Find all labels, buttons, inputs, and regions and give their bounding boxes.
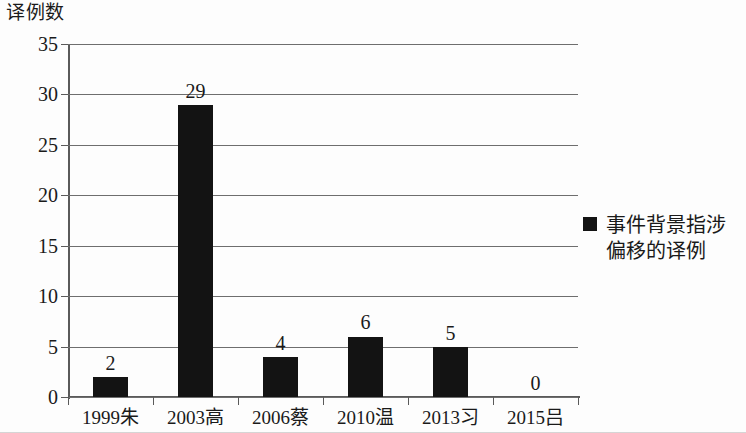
- bar-value-label: 0: [506, 372, 566, 394]
- y-tick-mark: [61, 145, 68, 146]
- bar-value-label: 29: [166, 80, 226, 102]
- bar-value-label: 5: [421, 322, 481, 344]
- x-tick-label: 2006蔡: [238, 406, 323, 430]
- y-tick-label: 10: [38, 284, 58, 308]
- legend-label-line1: 事件背景指涉: [606, 214, 726, 236]
- bar[interactable]: [93, 377, 128, 397]
- bar[interactable]: [178, 105, 213, 397]
- x-tick-label: 2010温: [323, 406, 408, 430]
- y-tick-label: 20: [38, 183, 58, 207]
- y-tick-mark: [61, 195, 68, 196]
- x-tick-mark: [153, 396, 154, 405]
- x-tick-label: 2013习: [408, 406, 493, 430]
- bar[interactable]: [263, 357, 298, 397]
- gridline: 35: [68, 44, 578, 45]
- y-tick-label: 5: [48, 335, 58, 359]
- y-tick-mark: [61, 94, 68, 95]
- x-tick-mark: [493, 396, 494, 405]
- y-tick-label: 30: [38, 82, 58, 106]
- y-axis-title: 译例数: [6, 2, 65, 24]
- y-tick-mark: [61, 296, 68, 297]
- x-tick-mark: [408, 396, 409, 405]
- y-tick-label: 25: [38, 133, 58, 157]
- legend-label-line2: 偏移的译例: [606, 240, 706, 262]
- x-tick-mark: [323, 396, 324, 405]
- legend: 事件背景指涉偏移的译例: [583, 212, 741, 264]
- x-tick-mark: [578, 396, 579, 405]
- bar-value-label: 6: [336, 311, 396, 333]
- gridline: 20: [68, 195, 578, 196]
- gridline: 5: [68, 347, 578, 348]
- x-tick-label: 2015吕: [493, 406, 578, 430]
- y-tick-label: 15: [38, 234, 58, 258]
- bar[interactable]: [348, 337, 383, 398]
- plot-area: 05101520253035 2294650: [68, 44, 578, 397]
- legend-swatch-icon: [583, 217, 597, 231]
- y-tick-mark: [61, 397, 68, 398]
- gridline: 15: [68, 246, 578, 247]
- y-tick-label: 35: [38, 32, 58, 56]
- y-tick-mark: [61, 246, 68, 247]
- x-tick-label: 2003高: [153, 406, 238, 430]
- x-tick-label: 1999朱: [68, 406, 153, 430]
- x-tick-mark: [68, 396, 69, 405]
- gridline: 30: [68, 94, 578, 95]
- y-tick-mark: [61, 347, 68, 348]
- bar-value-label: 4: [251, 332, 311, 354]
- y-tick-mark: [61, 44, 68, 45]
- legend-label: 事件背景指涉偏移的译例: [606, 212, 741, 264]
- bar-value-label: 2: [81, 352, 141, 374]
- x-tick-mark: [238, 396, 239, 405]
- gridline: 10: [68, 296, 578, 297]
- chart-figure: 译例数 05101520253035 2294650 1999朱2003高200…: [0, 0, 746, 433]
- gridline: 25: [68, 145, 578, 146]
- bar[interactable]: [433, 347, 468, 397]
- y-tick-label: 0: [48, 385, 58, 409]
